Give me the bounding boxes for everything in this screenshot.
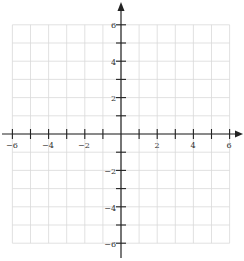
y-tick-label: −4 (104, 204, 116, 213)
y-tick-label: 4 (111, 58, 116, 67)
x-tick-label: 2 (154, 141, 159, 150)
tick-labels: −6 −4 −2 2 4 6 6 4 2 −2 −4 −6 (6, 21, 231, 249)
x-tick-label: 4 (190, 141, 195, 150)
y-tick-label: 6 (111, 21, 116, 30)
y-axis-arrow-icon (118, 2, 125, 11)
x-tick-label: −4 (42, 141, 54, 150)
x-axis-arrow-icon (235, 131, 243, 138)
coordinate-plane: −6 −4 −2 2 4 6 6 4 2 −2 −4 −6 (0, 0, 244, 261)
y-tick-label: −6 (104, 240, 116, 249)
x-tick-label: 6 (226, 141, 231, 150)
y-tick-label: −2 (104, 167, 116, 176)
y-tick-label: 2 (111, 94, 116, 103)
axes (2, 2, 243, 258)
x-tick-label: −2 (78, 141, 90, 150)
x-tick-label: −6 (6, 141, 18, 150)
